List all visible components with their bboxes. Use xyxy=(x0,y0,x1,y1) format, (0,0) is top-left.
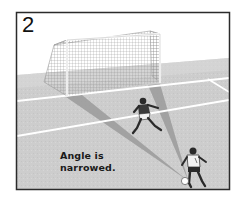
caption-line-2: narrowed. xyxy=(60,162,116,174)
panel-number: 2 xyxy=(22,14,34,36)
caption-line-1: Angle is xyxy=(60,150,116,162)
ball xyxy=(181,177,188,184)
caption: Angle is narrowed. xyxy=(60,150,116,174)
soccer-angle-illustration xyxy=(0,0,244,204)
